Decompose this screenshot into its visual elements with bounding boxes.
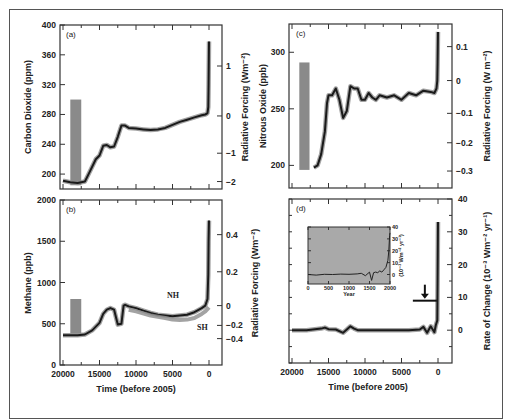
glacial-range-bar [70, 299, 81, 334]
right-tick-label: −0.1 [456, 108, 473, 118]
x-tick-label: 15000 [88, 369, 112, 379]
y-tick-label: 200 [271, 160, 285, 170]
right-tick-label: −1 [226, 148, 236, 158]
y-tick-label: 2000 [37, 195, 56, 205]
right-tick-label: 10 [458, 292, 468, 302]
right-tick-label: 0.2 [226, 267, 238, 277]
co2-axis-label: Carbon Dioxide (ppm) [23, 60, 33, 154]
x-tick-label: 10000 [124, 369, 148, 379]
n2o-axis-label: Nitrous Oxide (ppb) [258, 64, 268, 148]
x-tick-label: 0 [207, 369, 212, 379]
right-tick-label: 0 [456, 76, 461, 86]
time-axis-label-d: Time (before 2005) [328, 382, 407, 392]
panel-d: 2000015000100005000001020304005001000150… [280, 194, 468, 377]
x-tick-label: 20000 [280, 367, 304, 377]
panel-b: 2000015000100005000005001000150020000.40… [37, 195, 243, 379]
rf-axis-label-b: Radiative Forcing (Wm⁻²) [250, 229, 260, 338]
ch4-axis-label: Methane (ppb) [23, 252, 33, 314]
right-tick-label: 0.1 [456, 42, 468, 52]
panel-a-frame [60, 25, 222, 189]
panel-b-label: (b) [66, 205, 76, 214]
right-tick-label: −0.2 [456, 138, 473, 148]
glacial-range-bar [299, 62, 309, 169]
down-arrow-icon [421, 294, 429, 299]
svg-text:500: 500 [324, 285, 333, 291]
right-tick-label: −0.4 [226, 334, 243, 344]
panel-b-frame [60, 200, 222, 365]
x-tick-label: 15000 [317, 367, 341, 377]
x-tick-label: 10000 [353, 367, 377, 377]
panel-d-label: (d) [296, 204, 306, 213]
rf-axis-label-c: Radiative Forcing (W m⁻²) [482, 50, 492, 161]
right-tick-label: 0 [226, 111, 231, 121]
y-tick-label: 280 [42, 109, 56, 119]
svg-text:40: 40 [392, 224, 398, 230]
right-tick-label: −0.2 [226, 320, 243, 330]
series-line [63, 41, 209, 183]
inset-chart: 0500100015002000010203040Year(10⁻³ Wm⁻² … [306, 224, 404, 297]
svg-text:2000: 2000 [384, 285, 396, 291]
y-tick-label: 400 [42, 20, 56, 30]
sh-annotation: SH [197, 323, 208, 332]
nh-annotation: NH [167, 291, 180, 300]
y-tick-label: 1500 [37, 236, 56, 246]
right-tick-label: 30 [458, 227, 468, 237]
y-tick-label: 200 [42, 169, 56, 179]
series-line [314, 32, 438, 168]
svg-text:1500: 1500 [363, 285, 375, 291]
x-tick-label: 0 [436, 367, 441, 377]
y-tick-label: 500 [42, 319, 56, 329]
right-tick-label: −0.3 [456, 166, 473, 176]
panel-a-label: (a) [66, 30, 76, 39]
glacial-range-bar [70, 100, 81, 186]
y-tick-label: 1000 [37, 278, 56, 288]
y-tick-label: 360 [42, 50, 56, 60]
y-tick-label: 250 [271, 104, 285, 114]
panel-a: 20024028032036040010−1−2 [42, 20, 236, 189]
rate-axis-label: Rate of Change (10⁻³ Wm⁻² yr⁻¹) [482, 212, 492, 351]
panel-c-label: (c) [296, 29, 306, 38]
x-tick-label: 20000 [51, 369, 75, 379]
right-tick-label: 0 [226, 301, 231, 311]
time-axis-label-b: Time (before 2005) [96, 384, 175, 394]
y-tick-label: 0 [51, 360, 56, 370]
right-tick-label: −2 [226, 177, 236, 187]
right-tick-label: 20 [458, 260, 468, 270]
y-tick-label: 240 [42, 139, 56, 149]
x-tick-label: 5000 [163, 369, 182, 379]
y-tick-label: 300 [271, 47, 285, 57]
y-tick-label: 320 [42, 80, 56, 90]
x-tick-label: 5000 [392, 367, 411, 377]
panel-c: 2002503000.10−0.1−0.2−0.3 [271, 24, 473, 188]
inset-x-label: Year [343, 291, 355, 297]
panel-c-frame [289, 24, 452, 188]
svg-text:0: 0 [306, 285, 309, 291]
rf-axis-label-a: Radiative Forcing (Wm⁻²) [240, 53, 250, 162]
right-tick-label: 40 [458, 194, 468, 204]
right-tick-label: 0 [458, 325, 463, 335]
svg-text:0: 0 [392, 272, 395, 278]
right-tick-label: 0.4 [226, 230, 238, 240]
right-tick-label: 1 [226, 61, 231, 71]
inset-y-label: (10⁻³ Wm⁻² yr⁻¹) [398, 234, 404, 277]
